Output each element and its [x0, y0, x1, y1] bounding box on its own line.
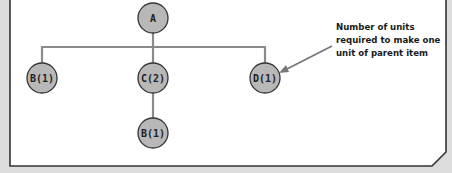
annotation-note: Number of units required to make one uni… — [336, 21, 446, 60]
diagram-stage: A B(1) C(2) D(1) B(1) Number of units re… — [0, 0, 452, 173]
node-label: A — [150, 13, 156, 24]
node-b-level1[interactable]: B(1) — [27, 63, 57, 93]
node-label: B(1) — [30, 73, 54, 84]
node-c[interactable]: C(2) — [138, 63, 168, 93]
node-b-level2[interactable]: B(1) — [138, 118, 168, 148]
annotation-line: unit of parent item — [336, 47, 446, 60]
node-a[interactable]: A — [138, 3, 168, 33]
node-d[interactable]: D(1) — [250, 63, 280, 93]
node-label: D(1) — [253, 73, 277, 84]
node-label: C(2) — [141, 73, 165, 84]
node-label: B(1) — [141, 128, 165, 139]
annotation-line: required to make one — [336, 34, 446, 47]
annotation-line: Number of units — [336, 21, 446, 34]
